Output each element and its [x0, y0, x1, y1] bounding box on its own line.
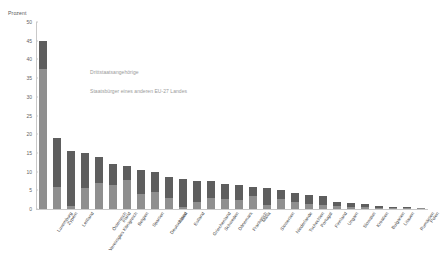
bar-column	[417, 208, 425, 209]
bar-column	[263, 188, 271, 209]
y-tick-mark	[36, 134, 38, 135]
bar-segment-drittstaatsangehoerige	[151, 172, 159, 192]
bar-column	[249, 187, 257, 209]
bar-segment-eu27-buerger	[333, 206, 341, 209]
bar-segment-eu27-buerger	[123, 180, 131, 209]
y-tick-label: 10	[0, 169, 35, 175]
bar-segment-eu27-buerger	[193, 202, 201, 209]
bar-segment-eu27-buerger	[95, 183, 103, 209]
bar-segment-eu27-buerger	[319, 205, 327, 209]
y-tick-mark	[36, 22, 38, 23]
bar-column	[361, 204, 369, 209]
x-tick-label: Ungarn	[347, 211, 360, 226]
bar-segment-eu27-buerger	[375, 208, 383, 209]
bar-segment-eu27-buerger	[221, 199, 229, 209]
x-tick-label: Slowakei	[362, 211, 377, 229]
bar-segment-eu27-buerger	[277, 199, 285, 209]
bar-segment-drittstaatsangehoerige	[207, 181, 215, 197]
x-tick-label: Kroatien	[375, 211, 389, 228]
bar-segment-drittstaatsangehoerige	[305, 195, 313, 204]
bar-column	[375, 206, 383, 209]
y-tick-mark	[36, 40, 38, 41]
y-tick-mark	[36, 152, 38, 153]
y-tick-label: 5	[0, 187, 35, 193]
bar-column	[305, 195, 313, 209]
bar-column	[151, 172, 159, 209]
bar-column	[165, 177, 173, 209]
bar-column	[403, 207, 411, 209]
y-axis-title: Prozent	[8, 10, 27, 16]
y-tick-label: 40	[0, 56, 35, 62]
bar-segment-drittstaatsangehoerige	[95, 157, 103, 183]
bar-segment-drittstaatsangehoerige	[81, 153, 89, 189]
bar-column	[333, 202, 341, 209]
bar-column	[277, 190, 285, 209]
bar-segment-eu27-buerger	[235, 200, 243, 209]
bar-segment-drittstaatsangehoerige	[291, 193, 299, 201]
bar-column	[95, 157, 103, 209]
bar-segment-drittstaatsangehoerige	[193, 181, 201, 202]
y-tick-mark	[36, 209, 38, 210]
bar-segment-drittstaatsangehoerige	[319, 196, 327, 205]
y-tick-label: 25	[0, 113, 35, 119]
y-tick-label: 20	[0, 131, 35, 137]
bar-segment-drittstaatsangehoerige	[249, 187, 257, 196]
bar-column	[39, 41, 47, 209]
bar-segment-eu27-buerger	[53, 187, 61, 209]
bar-segment-eu27-buerger	[179, 207, 187, 209]
bar-segment-eu27-buerger	[305, 204, 313, 209]
bar-column	[207, 181, 215, 209]
bar-segment-drittstaatsangehoerige	[109, 164, 117, 185]
bar-segment-drittstaatsangehoerige	[39, 41, 47, 69]
x-tick-label: Lettland	[81, 211, 95, 227]
bar-column	[123, 166, 131, 209]
x-axis-line	[36, 209, 428, 210]
bar-segment-drittstaatsangehoerige	[67, 151, 75, 206]
y-tick-mark	[36, 59, 38, 60]
x-tick-label: Spanien	[151, 211, 165, 228]
bar-segment-drittstaatsangehoerige	[221, 184, 229, 199]
x-tick-label: Italien	[177, 211, 188, 224]
y-tick-label: 35	[0, 75, 35, 81]
bar-segment-eu27-buerger	[389, 208, 397, 209]
bar-segment-eu27-buerger	[67, 206, 75, 209]
bar-column	[193, 181, 201, 209]
x-tick-label: Finnland	[334, 211, 348, 229]
bar-segment-eu27-buerger	[151, 192, 159, 209]
y-tick-mark	[36, 96, 38, 97]
y-tick-mark	[36, 171, 38, 172]
bar-column	[319, 196, 327, 209]
bar-segment-eu27-buerger	[109, 185, 117, 209]
bar-segment-eu27-buerger	[81, 188, 89, 209]
bar-column	[81, 153, 89, 209]
y-tick-label: 15	[0, 150, 35, 156]
bar-segment-drittstaatsangehoerige	[137, 170, 145, 194]
bar-segment-eu27-buerger	[263, 205, 271, 209]
x-tick-label-group: LuxemburgZypernLettlandVereinigtes König…	[36, 211, 428, 273]
plot-area: Drittstaatsangehörige Staatsbürger eines…	[36, 22, 428, 209]
bar-column	[67, 151, 75, 209]
bar-segment-eu27-buerger	[291, 202, 299, 209]
y-tick-mark	[36, 190, 38, 191]
bar-segment-drittstaatsangehoerige	[179, 179, 187, 207]
bar-segment-eu27-buerger	[39, 69, 47, 209]
bar-segment-eu27-buerger	[165, 198, 173, 209]
y-tick-mark	[36, 78, 38, 79]
bar-column	[347, 203, 355, 209]
bar-column	[137, 170, 145, 209]
bar-segment-drittstaatsangehoerige	[53, 138, 61, 187]
bar-segment-drittstaatsangehoerige	[165, 177, 173, 198]
bar-column	[53, 138, 61, 209]
bar-segment-eu27-buerger	[249, 196, 257, 209]
x-tick-label: Estland	[193, 211, 206, 227]
bar-segment-eu27-buerger	[361, 207, 369, 209]
y-tick-label: 50	[0, 19, 35, 25]
bar-segment-eu27-buerger	[207, 198, 215, 209]
bar-segment-drittstaatsangehoerige	[263, 188, 271, 205]
bar-segment-drittstaatsangehoerige	[123, 166, 131, 180]
bar-segment-eu27-buerger	[137, 194, 145, 209]
bar-column	[109, 164, 117, 209]
legend-label-drittstaatsangehoerige: Drittstaatsangehörige	[90, 69, 139, 75]
bar-segment-eu27-buerger	[403, 208, 411, 209]
bar-column	[179, 179, 187, 209]
